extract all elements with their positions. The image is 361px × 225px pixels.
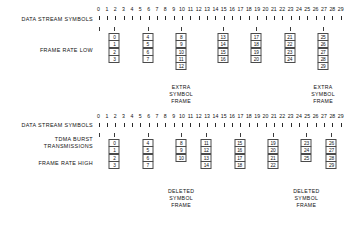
symbol-cell: 10 xyxy=(176,154,187,162)
scale-tick-label: 2 xyxy=(114,113,117,119)
symbol-cell: 3 xyxy=(109,55,120,63)
scale-tick-label: 5 xyxy=(139,6,142,12)
symbol-frame-group: 89101112 xyxy=(176,33,187,70)
scale-tick-label: 29 xyxy=(338,113,344,119)
symbol-scale-top: 0123456789101112131415161718192021222324… xyxy=(0,4,361,26)
scale-tick-mark xyxy=(182,16,183,20)
scale-tick-mark xyxy=(324,123,325,127)
symbol-cell: 14 xyxy=(201,161,212,169)
symbol-cell: 22 xyxy=(268,161,279,169)
scale-tick-label: 29 xyxy=(338,6,344,12)
scale-tick-label: 26 xyxy=(313,113,319,119)
symbol-scale-bottom: 0123456789101112131415161718192021222324… xyxy=(0,111,361,133)
scale-tick-label: 18 xyxy=(246,113,252,119)
scale-tick-label: 15 xyxy=(221,113,227,119)
scale-tick-label: 1 xyxy=(105,6,108,12)
symbol-frame-group: 232425 xyxy=(301,139,312,161)
scale-tick-label: 27 xyxy=(321,113,327,119)
burst-stem xyxy=(290,27,291,31)
scale-tick-mark xyxy=(182,123,183,127)
scale-tick-mark xyxy=(299,16,300,20)
scale-tick-label: 21 xyxy=(271,113,277,119)
scale-tick-mark xyxy=(190,123,191,127)
scale-tick-label: 13 xyxy=(204,6,210,12)
tdma-burst-label-line1: TDMA BURST xyxy=(55,136,93,142)
scale-tick-mark xyxy=(249,16,250,20)
scale-tick-label: 9 xyxy=(172,113,175,119)
burst-stem xyxy=(181,27,182,31)
scale-tick-label: 14 xyxy=(213,6,219,12)
scale-tick-label: 11 xyxy=(188,6,193,12)
scale-tick-mark xyxy=(132,123,133,127)
scale-tick-mark xyxy=(316,123,317,127)
scale-tick-label: 23 xyxy=(288,113,294,119)
burst-stem xyxy=(306,133,307,137)
scale-tick-label: 22 xyxy=(279,6,285,12)
scale-tick-mark xyxy=(215,123,216,127)
symbol-frame-group: 0123 xyxy=(109,33,120,62)
burst-stem xyxy=(148,133,149,137)
panel-frame-rate-low: DATA STREAM SYMBOLS FRAME RATE LOW 01234… xyxy=(0,0,361,113)
scale-tick-mark xyxy=(157,16,158,20)
scale-tick-mark xyxy=(124,123,125,127)
scale-tick-label: 5 xyxy=(139,113,142,119)
burst-stem xyxy=(114,133,115,137)
scale-tick-mark xyxy=(174,123,175,127)
scale-tick-mark xyxy=(341,123,342,127)
burst-stem xyxy=(323,27,324,31)
frame-annotation: EXTRASYMBOLFRAME xyxy=(311,84,335,106)
scale-tick-label: 6 xyxy=(147,6,150,12)
scale-tick-mark xyxy=(224,16,225,20)
scale-tick-label: 19 xyxy=(254,113,260,119)
frame-annotation-line: FRAME xyxy=(311,98,335,105)
symbol-cell: 29 xyxy=(326,161,337,169)
scale-tick-mark xyxy=(240,16,241,20)
scale-tick-label: 11 xyxy=(188,113,193,119)
scale-tick-mark xyxy=(190,16,191,20)
tdma-burst-label-line2: TRANSMISSIONS xyxy=(44,143,93,149)
scale-tick-label: 7 xyxy=(155,6,158,12)
burst-stem xyxy=(181,133,182,137)
symbol-cell: 24 xyxy=(284,55,295,63)
tdma-symbol-frame-diagram: DATA STREAM SYMBOLS FRAME RATE LOW 01234… xyxy=(0,0,361,225)
symbol-frame-group: 0123 xyxy=(109,139,120,168)
scale-tick-label: 12 xyxy=(196,113,202,119)
burst-stem-lead xyxy=(99,133,100,137)
scale-tick-mark xyxy=(291,123,292,127)
scale-tick-label: 1 xyxy=(105,113,108,119)
scale-tick-mark xyxy=(132,16,133,20)
symbol-frame-group: 11121314 xyxy=(201,139,212,168)
scale-tick-mark xyxy=(140,16,141,20)
scale-tick-mark xyxy=(107,16,108,20)
symbol-cell: 29 xyxy=(318,62,329,70)
scale-tick-label: 24 xyxy=(296,113,302,119)
symbol-cell: 7 xyxy=(142,55,153,63)
scale-tick-mark xyxy=(174,16,175,20)
symbol-cell: 18 xyxy=(234,161,245,169)
scale-tick-mark xyxy=(207,123,208,127)
symbol-frame-group: 4567 xyxy=(142,33,153,62)
scale-tick-label: 2 xyxy=(114,6,117,12)
scale-tick-label: 16 xyxy=(229,113,235,119)
scale-tick-mark xyxy=(157,123,158,127)
scale-tick-mark xyxy=(257,123,258,127)
scale-tick-label: 8 xyxy=(164,6,167,12)
symbol-cell: 3 xyxy=(109,161,120,169)
scale-tick-label: 17 xyxy=(238,113,244,119)
burst-stem xyxy=(114,27,115,31)
scale-tick-label: 4 xyxy=(130,113,133,119)
scale-tick-mark xyxy=(149,123,150,127)
scale-tick-mark xyxy=(149,16,150,20)
frame-annotation-line: FRAME xyxy=(169,98,193,105)
scale-tick-label: 23 xyxy=(288,6,294,12)
scale-tick-label: 25 xyxy=(304,113,310,119)
scale-tick-mark xyxy=(199,16,200,20)
row-label-frame-rate-low: FRAME RATE LOW xyxy=(40,47,93,53)
scale-tick-label: 7 xyxy=(155,113,158,119)
scale-tick-mark xyxy=(332,123,333,127)
scale-tick-label: 20 xyxy=(263,6,269,12)
scale-tick-mark xyxy=(115,16,116,20)
symbol-frame-group: 15161718 xyxy=(234,139,245,168)
scale-tick-mark xyxy=(307,123,308,127)
scale-tick-label: 4 xyxy=(130,6,133,12)
